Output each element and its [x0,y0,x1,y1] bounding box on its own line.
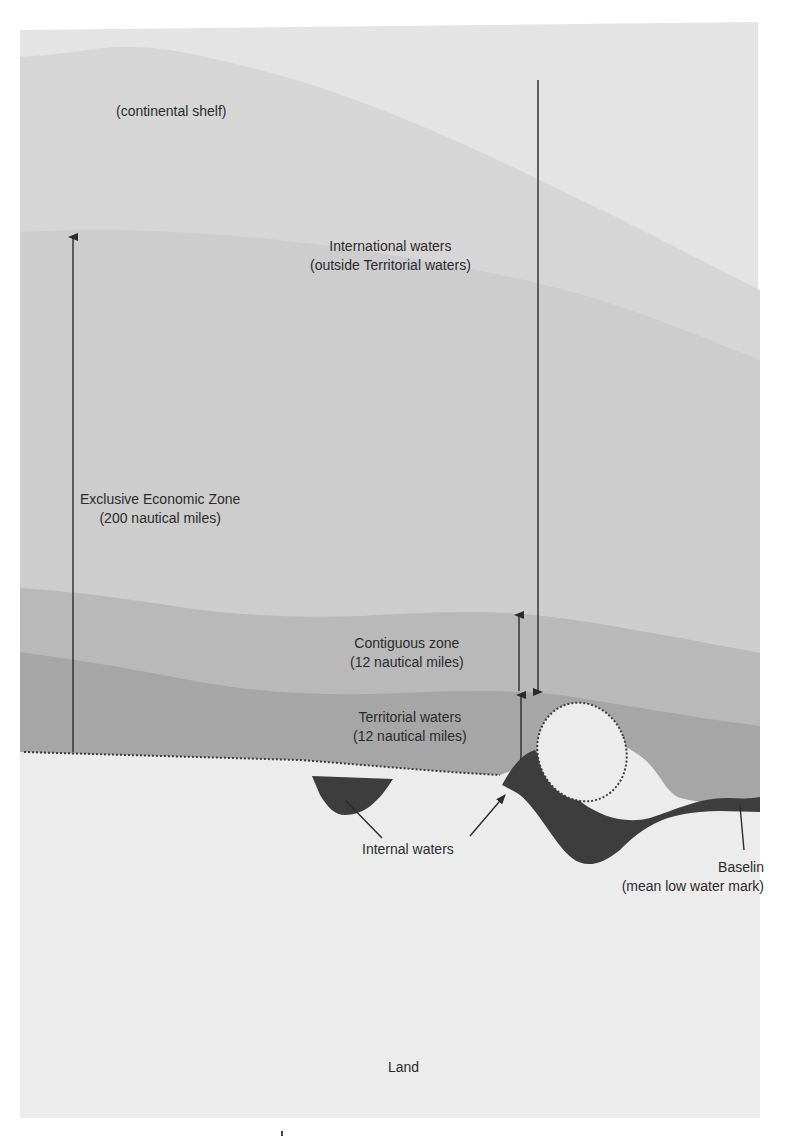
eez-line2: (200 nautical miles) [80,509,240,528]
baseline-line1: Baselin [594,858,764,877]
diagram-canvas [0,0,788,1143]
eez-line1: Exclusive Economic Zone [80,490,240,509]
international-waters-line2: (outside Territorial waters) [310,256,471,275]
continental-shelf-text: (continental shelf) [116,102,227,121]
territorial-waters-line2: (12 nautical miles) [353,727,467,746]
label-contiguous-zone: Contiguous zone (12 nautical miles) [350,634,464,672]
land-text: Land [388,1058,419,1077]
contiguous-zone-line1: Contiguous zone [350,634,464,653]
international-waters-line1: International waters [310,237,471,256]
label-baseline: Baselin (mean low water mark) [594,858,764,896]
internal-waters-text: Internal waters [362,840,454,859]
scan-mark [281,1131,283,1136]
territorial-waters-line1: Territorial waters [353,708,467,727]
label-eez: Exclusive Economic Zone (200 nautical mi… [80,490,240,528]
label-continental-shelf: (continental shelf) [116,102,227,121]
label-land: Land [388,1058,419,1077]
maritime-zones-diagram: (continental shelf) International waters… [0,0,788,1143]
label-international-waters: International waters (outside Territoria… [310,237,471,275]
baseline-line2: (mean low water mark) [594,877,764,896]
label-internal-waters: Internal waters [362,840,454,859]
contiguous-zone-line2: (12 nautical miles) [350,653,464,672]
label-territorial-waters: Territorial waters (12 nautical miles) [353,708,467,746]
